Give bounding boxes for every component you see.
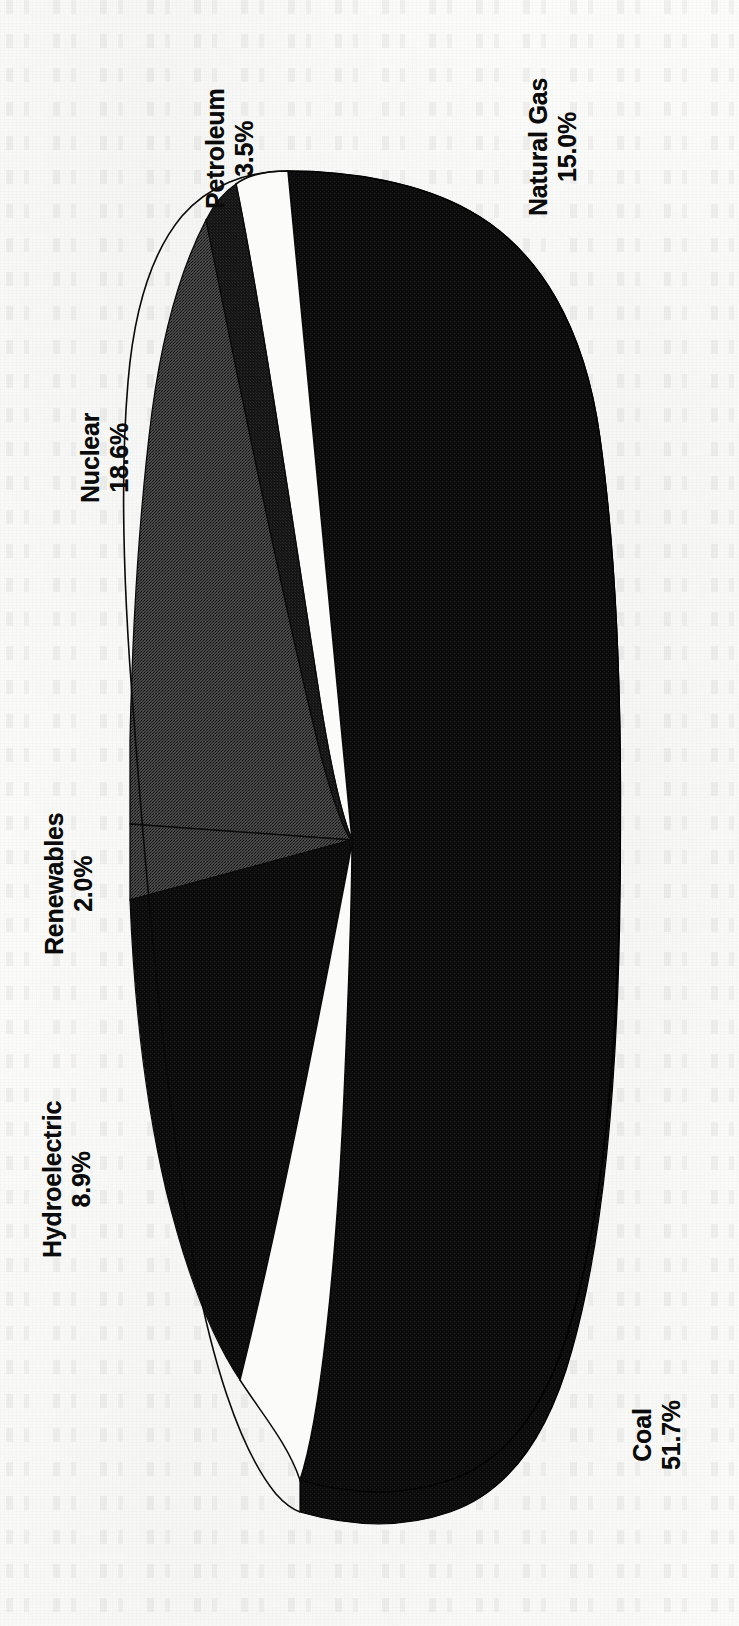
slice-label-hydroelectric-name: Hydroelectric — [38, 1101, 67, 1258]
slice-label-nuclear: Nuclear 18.6% — [76, 413, 134, 503]
slice-label-coal-name: Coal — [628, 1400, 657, 1470]
slice-label-petroleum: Petroleum 3.5% — [201, 89, 259, 209]
slice-label-renewables-name: Renewables — [40, 812, 69, 955]
slice-label-natural-gas-value: 15.0% — [553, 78, 582, 216]
slice-label-hydroelectric-value: 8.9% — [67, 1101, 96, 1258]
slice-label-petroleum-name: Petroleum — [201, 89, 230, 209]
scanned-chart-page: Petroleum 3.5% Natural Gas 15.0% Nuclear… — [0, 0, 739, 1626]
pie-3d-body — [124, 171, 621, 1524]
slice-label-nuclear-name: Nuclear — [76, 413, 105, 503]
slice-label-petroleum-value: 3.5% — [230, 89, 259, 209]
slice-label-hydroelectric: Hydroelectric 8.9% — [38, 1101, 96, 1258]
slice-label-natural-gas: Natural Gas 15.0% — [524, 78, 582, 216]
pie-chart-graphic — [0, 0, 739, 1626]
pie-chart: Petroleum 3.5% Natural Gas 15.0% Nuclear… — [0, 0, 739, 1626]
slice-label-renewables-value: 2.0% — [69, 812, 98, 955]
slice-label-natural-gas-name: Natural Gas — [524, 78, 553, 216]
slice-label-nuclear-value: 18.6% — [105, 413, 134, 503]
slice-label-renewables: Renewables 2.0% — [40, 812, 98, 955]
slice-label-coal-value: 51.7% — [657, 1400, 686, 1470]
slice-label-coal: Coal 51.7% — [628, 1400, 686, 1470]
